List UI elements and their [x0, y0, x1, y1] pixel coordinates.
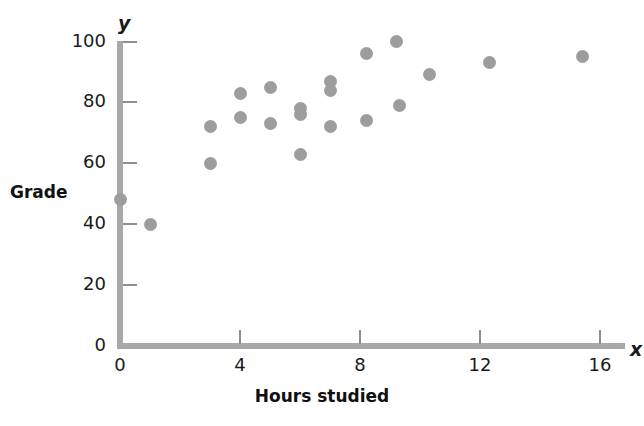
y-tick-label-60: 60 — [46, 153, 106, 171]
data-point — [264, 81, 277, 94]
y-tick-label-20: 20 — [46, 275, 106, 293]
x-tick-label-0: 0 — [90, 356, 150, 374]
x-tick-4 — [239, 330, 241, 344]
data-point — [204, 120, 217, 133]
x-tick-label-12: 12 — [450, 356, 510, 374]
data-point — [324, 84, 337, 97]
data-point — [360, 114, 373, 127]
x-tick-label-4: 4 — [210, 356, 270, 374]
x-tick-label-8: 8 — [330, 356, 390, 374]
y-tick-label-100: 100 — [46, 32, 106, 50]
data-point — [393, 99, 406, 112]
x-tick-label-16: 16 — [570, 356, 630, 374]
x-tick-12 — [479, 330, 481, 344]
data-point — [324, 120, 337, 133]
data-point — [390, 35, 403, 48]
y-tick-label-0: 0 — [46, 336, 106, 354]
y-axis-symbol: y — [118, 12, 130, 34]
y-tick-20 — [123, 284, 137, 286]
x-axis-title: Hours studied — [0, 386, 644, 406]
y-axis-title: Grade — [10, 182, 68, 202]
data-point — [423, 68, 436, 81]
data-point — [114, 193, 127, 206]
data-point — [576, 50, 589, 63]
x-axis-symbol: x — [630, 338, 642, 360]
data-point — [264, 117, 277, 130]
y-tick-40 — [123, 223, 137, 225]
y-tick-80 — [123, 101, 137, 103]
data-point — [294, 108, 307, 121]
data-point — [234, 111, 247, 124]
y-tick-label-40: 40 — [46, 214, 106, 232]
x-tick-8 — [359, 330, 361, 344]
data-point — [360, 47, 373, 60]
y-tick-label-80: 80 — [46, 92, 106, 110]
data-point — [483, 56, 496, 69]
scatter-plot: y x Grade Hours studied 020406080100 048… — [0, 0, 644, 426]
data-point — [294, 148, 307, 161]
data-point — [234, 87, 247, 100]
x-axis-line — [117, 343, 625, 349]
x-tick-16 — [599, 330, 601, 344]
y-tick-100 — [123, 41, 137, 43]
y-tick-60 — [123, 162, 137, 164]
data-point — [204, 157, 217, 170]
data-point — [144, 218, 157, 231]
